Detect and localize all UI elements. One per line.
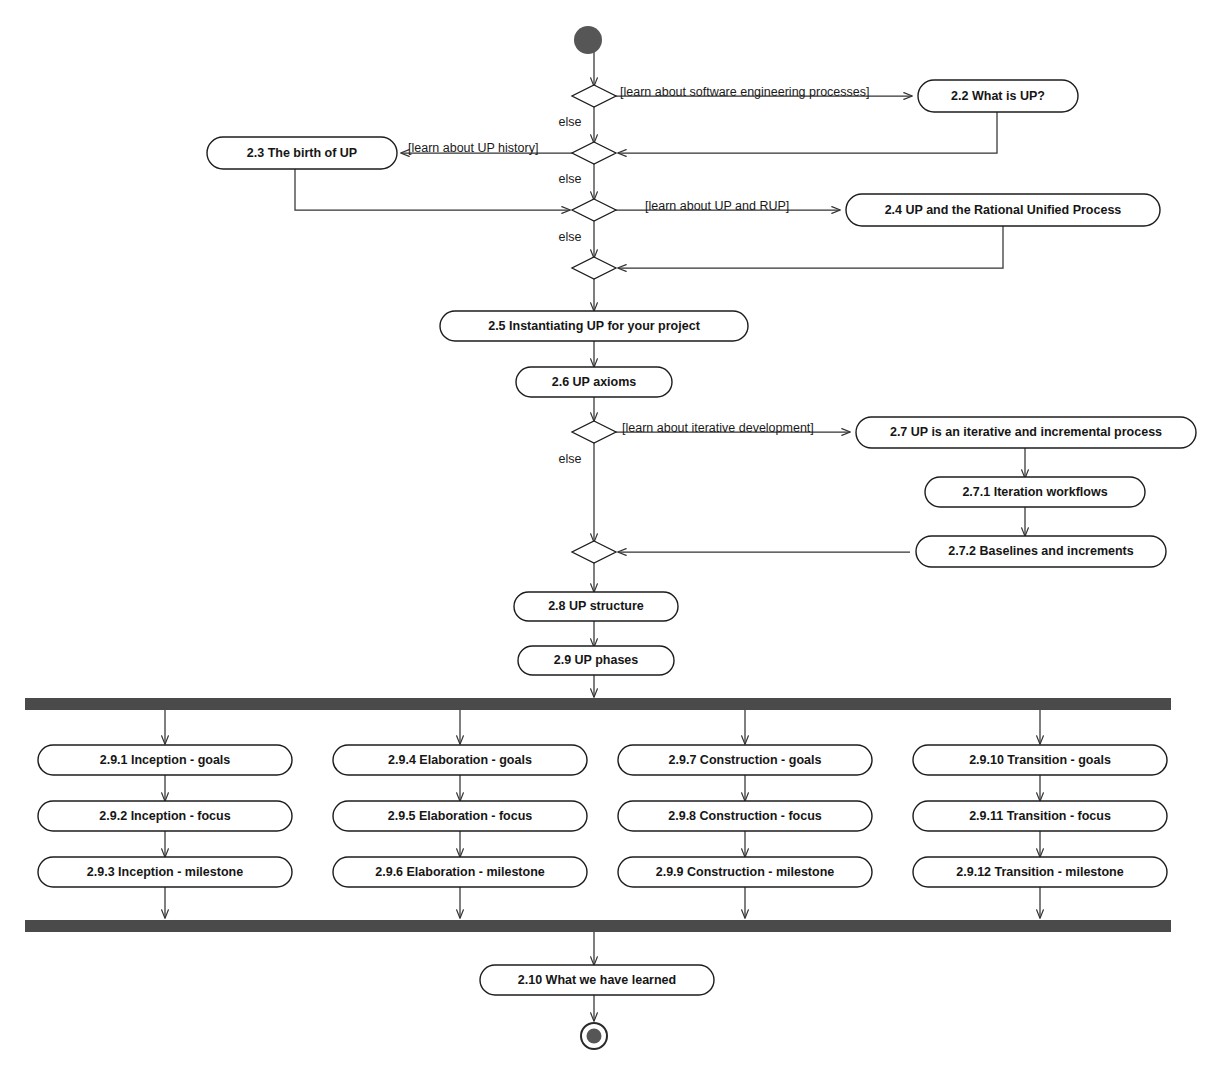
activity-label-2-4: 2.4 UP and the Rational Unified Process (885, 203, 1122, 217)
decision-node-3[interactable] (572, 199, 616, 221)
activity-label-2-9-5: 2.9.5 Elaboration - focus (388, 809, 533, 823)
activity-node-2-4[interactable]: 2.4 UP and the Rational Unified Process (846, 194, 1160, 226)
activity-label-2-3: 2.3 The birth of UP (247, 146, 357, 160)
activity-label-2-9-8: 2.9.8 Construction - focus (668, 809, 822, 823)
activity-label-2-7-1: 2.7.1 Iteration workflows (962, 485, 1107, 499)
activity-label-2-7-2: 2.7.2 Baselines and increments (948, 544, 1134, 558)
edge-a22-to-d2 (618, 112, 997, 153)
merge-node-4[interactable] (572, 257, 616, 279)
final-node (587, 1029, 602, 1044)
decision-node-1[interactable] (572, 85, 616, 107)
activity-node-2-2[interactable]: 2.2 What is UP? (918, 80, 1078, 112)
activity-label-2-9-9: 2.9.9 Construction - milestone (656, 865, 835, 879)
activity-node-2-9-4[interactable]: 2.9.4 Elaboration - goals (333, 745, 587, 775)
activity-label-2-9-1: 2.9.1 Inception - goals (100, 753, 231, 767)
activity-node-2-9-9[interactable]: 2.9.9 Construction - milestone (618, 857, 872, 887)
activity-node-2-9-2[interactable]: 2.9.2 Inception - focus (38, 801, 292, 831)
guard-label-1: [learn about software engineering proces… (620, 85, 869, 99)
join-bar (25, 920, 1171, 932)
activity-node-2-8[interactable]: 2.8 UP structure (514, 592, 678, 621)
guard-label-5: [learn about iterative development] (622, 421, 814, 435)
activity-label-2-6: 2.6 UP axioms (552, 375, 637, 389)
edge-a23-to-d3 (295, 169, 570, 210)
else-label-1: else (559, 115, 582, 129)
activity-node-2-9-7[interactable]: 2.9.7 Construction - goals (618, 745, 872, 775)
activity-node-2-7[interactable]: 2.7 UP is an iterative and incremental p… (856, 417, 1196, 448)
else-label-2: else (559, 172, 582, 186)
activity-node-2-6[interactable]: 2.6 UP axioms (516, 367, 672, 397)
activity-label-2-9-4: 2.9.4 Elaboration - goals (388, 753, 532, 767)
else-label-5: else (559, 452, 582, 466)
edge-a24-to-d4 (618, 226, 1003, 268)
guard-label-2: [learn about UP history] (408, 141, 538, 155)
else-label-3: else (559, 230, 582, 244)
activity-node-2-7-1[interactable]: 2.7.1 Iteration workflows (925, 477, 1145, 507)
activity-label-2-10: 2.10 What we have learned (518, 973, 676, 987)
activity-label-2-9-7: 2.9.7 Construction - goals (669, 753, 822, 767)
activity-diagram: [learn about software engineering proces… (0, 0, 1232, 1068)
merge-node-6[interactable] (572, 541, 616, 563)
activity-label-2-9-6: 2.9.6 Elaboration - milestone (375, 865, 545, 879)
activity-node-2-9-1[interactable]: 2.9.1 Inception - goals (38, 745, 292, 775)
activity-diagram-canvas: [learn about software engineering proces… (0, 0, 1232, 1068)
activity-node-2-3[interactable]: 2.3 The birth of UP (207, 137, 397, 169)
activity-node-2-9-11[interactable]: 2.9.11 Transition - focus (913, 801, 1167, 831)
activity-node-2-5[interactable]: 2.5 Instantiating UP for your project (440, 311, 748, 341)
activity-label-2-9: 2.9 UP phases (554, 653, 639, 667)
activity-node-2-9-5[interactable]: 2.9.5 Elaboration - focus (333, 801, 587, 831)
activity-node-2-9-12[interactable]: 2.9.12 Transition - milestone (913, 857, 1167, 887)
guard-label-3: [learn about UP and RUP] (645, 199, 789, 213)
activity-node-2-7-2[interactable]: 2.7.2 Baselines and increments (916, 536, 1166, 567)
activity-node-2-9-3[interactable]: 2.9.3 Inception - milestone (38, 857, 292, 887)
activity-label-2-9-2: 2.9.2 Inception - focus (99, 809, 230, 823)
activity-label-2-2: 2.2 What is UP? (951, 89, 1045, 103)
activity-label-2-5: 2.5 Instantiating UP for your project (488, 319, 700, 333)
activity-node-2-9-8[interactable]: 2.9.8 Construction - focus (618, 801, 872, 831)
activity-node-2-9-6[interactable]: 2.9.6 Elaboration - milestone (333, 857, 587, 887)
initial-node (574, 26, 602, 54)
fork-bar (25, 698, 1171, 710)
activity-label-2-7: 2.7 UP is an iterative and incremental p… (890, 425, 1162, 439)
activity-label-2-9-3: 2.9.3 Inception - milestone (87, 865, 243, 879)
activity-label-2-9-11: 2.9.11 Transition - focus (969, 809, 1111, 823)
decision-node-2[interactable] (572, 142, 616, 164)
activity-label-2-8: 2.8 UP structure (548, 599, 644, 613)
activity-node-2-10[interactable]: 2.10 What we have learned (480, 965, 714, 995)
activity-label-2-9-10: 2.9.10 Transition - goals (969, 753, 1111, 767)
activity-label-2-9-12: 2.9.12 Transition - milestone (956, 865, 1123, 879)
decision-node-5[interactable] (572, 421, 616, 443)
activity-node-2-9[interactable]: 2.9 UP phases (518, 646, 674, 675)
activity-node-2-9-10[interactable]: 2.9.10 Transition - goals (913, 745, 1167, 775)
